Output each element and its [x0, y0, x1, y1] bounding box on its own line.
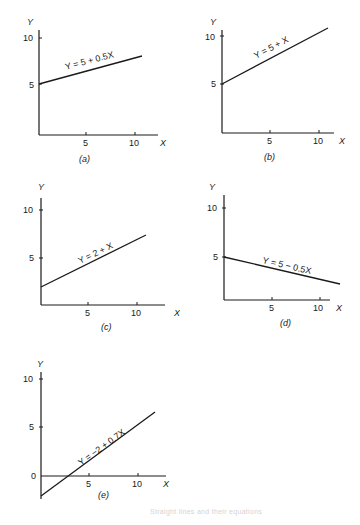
panel-label: (c) — [101, 322, 112, 332]
chart-e: Y 10 5 0 5 10 X Y = −2 + 0.7X — [0, 355, 180, 503]
y-tick-label: 10 — [23, 205, 33, 215]
y-tick-label: 5 — [29, 253, 34, 263]
y-tick-label: 5 — [211, 79, 216, 89]
y-axis-label: Y — [38, 182, 45, 192]
x-tick-label: 5 — [267, 136, 272, 146]
equation-label: Y = 5 − 0.5X — [262, 255, 313, 276]
chart-a: Y 10 5 5 10 X Y = 5 + 0.5X (a) — [0, 0, 180, 165]
chart-b: Y 10 5 5 10 X Y = 5 + X (b) — [180, 0, 360, 165]
line-series — [41, 235, 146, 287]
x-axis-label: X — [173, 308, 180, 318]
x-tick-label: 10 — [131, 308, 141, 318]
panel-c-label-wrap: (c) — [0, 320, 180, 334]
y-tick-label: 10 — [23, 374, 33, 384]
y-tick-label: 10 — [205, 32, 215, 42]
x-tick-label: 10 — [313, 136, 323, 146]
panel-label: (d) — [280, 318, 291, 328]
x-axis-label: X — [335, 303, 343, 313]
y-tick-label: 5 — [213, 252, 218, 262]
y-axis-label: Y — [37, 359, 44, 369]
x-axis-label: X — [159, 138, 167, 148]
panel-label: (a) — [79, 154, 90, 164]
figure-caption: Straight lines and their equations — [150, 508, 262, 515]
y-axis-label: Y — [210, 17, 217, 27]
x-tick-label: 10 — [313, 303, 323, 313]
chart-c: Y 10 5 5 10 X Y = 2 + X — [0, 175, 180, 320]
y-axis-label: Y — [209, 182, 216, 192]
y-tick-label: 10 — [207, 203, 217, 213]
y-tick-label: 5 — [29, 80, 34, 90]
panel-e-label-wrap: (e) — [0, 488, 180, 502]
x-tick-label: 5 — [269, 303, 274, 313]
equation-label: Y = 5 + 0.5X — [64, 49, 115, 72]
x-tick-label: 5 — [85, 308, 90, 318]
y-tick-label: 5 — [29, 422, 34, 432]
x-tick-label: 5 — [83, 138, 88, 148]
y-tick-label: 0 — [31, 471, 36, 481]
panel-label: (b) — [264, 152, 275, 162]
chart-d: Y 10 5 5 10 X Y = 5 − 0.5X (d) — [180, 175, 360, 335]
equation-label: Y = −2 + 0.7X — [76, 427, 126, 468]
equation-label: Y = 5 + X — [252, 34, 290, 60]
panel-label: (e) — [98, 490, 109, 500]
x-axis-label: X — [338, 136, 346, 146]
x-tick-label: 10 — [129, 138, 139, 148]
y-tick-label: 10 — [23, 33, 33, 43]
line-series — [222, 28, 328, 84]
y-axis-label: Y — [27, 17, 34, 27]
